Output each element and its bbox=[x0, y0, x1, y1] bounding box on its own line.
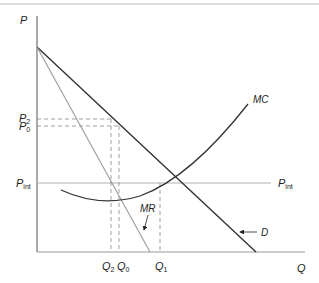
q0-label: Q0 bbox=[117, 260, 130, 273]
q1-label: Q1 bbox=[155, 260, 168, 273]
marginal-cost-curve bbox=[61, 104, 248, 201]
mc-label: MC bbox=[253, 94, 269, 105]
mr-label: MR bbox=[140, 203, 156, 214]
p2-sub: 2 bbox=[26, 118, 30, 125]
monopoly-trade-diagram: P Q MC MR D Pint P2 P0 Pint Q2 Q0 Q1 bbox=[0, 0, 319, 283]
dashed-guides bbox=[37, 119, 160, 252]
pint-left-label: Pint bbox=[16, 177, 31, 190]
q2-sub: 2 bbox=[111, 266, 115, 273]
x-axis-label: Q bbox=[297, 262, 306, 274]
mr-arrow-icon bbox=[144, 215, 148, 230]
q1-sub: 1 bbox=[164, 266, 168, 273]
d-label: D bbox=[261, 227, 268, 238]
q0-sub: 0 bbox=[126, 266, 130, 273]
pint-left-sub: int bbox=[23, 183, 30, 190]
marginal-revenue-curve bbox=[37, 47, 150, 252]
p0-sub: 0 bbox=[26, 126, 30, 133]
y-axis-label: P bbox=[20, 14, 28, 26]
pint-right-label: Pint bbox=[278, 177, 293, 190]
q2-label: Q2 bbox=[102, 260, 115, 273]
pint-right-sub: int bbox=[285, 183, 292, 190]
